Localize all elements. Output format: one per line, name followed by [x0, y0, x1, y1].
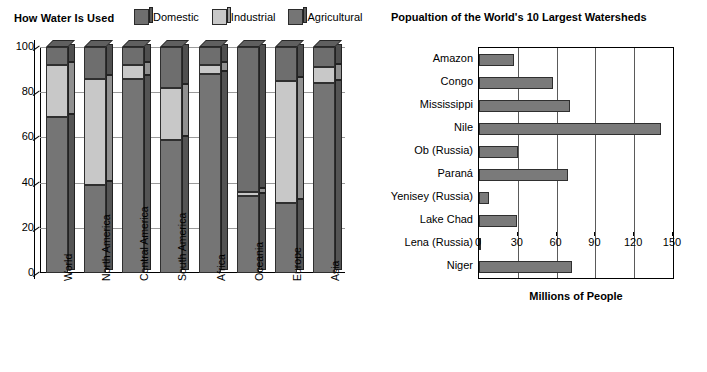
- stacked-bar-column[interactable]: [237, 47, 259, 273]
- left-chart-title: How Water Is Used: [14, 12, 114, 24]
- x-tick-label: 120: [618, 236, 648, 248]
- horizontal-bar-chart-panel: Popualtion of the World's 10 Largest Wat…: [380, 0, 707, 372]
- legend-swatch-industrial-icon: [212, 9, 227, 25]
- legend-swatch-domestic-icon: [134, 9, 149, 25]
- stacked-bar-segment-side: [68, 62, 75, 114]
- stacked-bar-segment-side: [68, 114, 75, 270]
- legend-label-domestic: Domestic: [153, 11, 199, 23]
- legend-item-industrial: Industrial: [212, 9, 276, 25]
- stacked-bar-segment-side: [221, 71, 228, 270]
- stacked-bar-segment[interactable]: [84, 47, 106, 79]
- stacked-bar-segment[interactable]: [122, 47, 144, 65]
- stacked-bar-segment-side: [144, 62, 151, 76]
- horizontal-bar[interactable]: [479, 261, 572, 273]
- legend: Domestic Industrial Agricultural: [134, 9, 370, 25]
- x-axis-category-label: North America: [100, 214, 112, 281]
- stacked-bar-segment-side: [297, 44, 304, 78]
- x-tick-mark: [478, 232, 479, 236]
- hbar-category-label: Congo: [323, 75, 473, 87]
- legend-item-agricultural: Agricultural: [288, 9, 362, 25]
- horizontal-bar[interactable]: [479, 146, 518, 158]
- stacked-bar-segment[interactable]: [46, 65, 68, 117]
- y-tick-label: 20: [0, 221, 34, 233]
- hbar-x-axis-title: Millions of People: [478, 290, 674, 302]
- stacked-bar-segment-side: [182, 84, 189, 136]
- stacked-bar-segment[interactable]: [160, 47, 182, 88]
- legend-label-industrial: Industrial: [231, 11, 276, 23]
- hbar-category-label: Mississippi: [323, 98, 473, 110]
- horizontal-bar[interactable]: [479, 169, 568, 181]
- stacked-bar-column[interactable]: [199, 47, 221, 273]
- stacked-bar-segment-side: [259, 188, 266, 193]
- stacked-bar-segment[interactable]: [199, 47, 221, 65]
- stacked-bar-segment[interactable]: [46, 47, 68, 65]
- stacked-bar-segment[interactable]: [275, 47, 297, 81]
- x-axis-category-label: South America: [176, 213, 188, 281]
- horizontal-bar[interactable]: [479, 77, 553, 89]
- y-tick-label: 80: [0, 85, 34, 97]
- legend-label-agricultural: Agricultural: [307, 11, 362, 23]
- hbar-category-label: Amazon: [323, 52, 473, 64]
- x-tick-mark: [556, 232, 557, 236]
- y-tick-label: 40: [0, 176, 34, 188]
- stacked-bar-segment-side: [297, 77, 304, 199]
- horizontal-bar[interactable]: [479, 192, 489, 204]
- stacked-bar-segment-side: [68, 44, 75, 62]
- stacked-plot-area: 020406080100: [40, 47, 345, 273]
- legend-item-domestic: Domestic: [134, 9, 199, 25]
- stacked-bar-segment[interactable]: [199, 74, 221, 273]
- y-axis-line-outer: [34, 40, 35, 279]
- horizontal-bar[interactable]: [479, 215, 517, 227]
- stacked-bar-segment-side: [144, 44, 151, 62]
- stacked-bar-segment[interactable]: [199, 65, 221, 74]
- stacked-bar-segment[interactable]: [275, 81, 297, 203]
- y-tick-label: 60: [0, 130, 34, 142]
- x-axis-category-label: Europe: [291, 247, 303, 281]
- x-tick-label: 60: [541, 236, 571, 248]
- stacked-bar-segment[interactable]: [122, 65, 144, 79]
- legend-swatch-agricultural-icon: [288, 9, 303, 25]
- hbar-category-label: Ob (Russia): [323, 144, 473, 156]
- y-tick-label: 0: [0, 266, 34, 278]
- x-tick-label: 150: [657, 236, 687, 248]
- x-axis-category-label: World: [62, 254, 74, 281]
- stacked-bar-segment-side: [106, 75, 113, 181]
- horizontal-bar[interactable]: [479, 54, 514, 66]
- x-axis-category-label: Oceania: [253, 242, 265, 281]
- stacked-bar-segment-side: [106, 44, 113, 76]
- stacked-bar-segment[interactable]: [237, 47, 259, 192]
- x-tick-mark: [594, 232, 595, 236]
- y-axis-line: [40, 47, 41, 273]
- horizontal-bar[interactable]: [479, 123, 661, 135]
- x-axis-category-label: Central America: [138, 206, 150, 281]
- x-tick-label: 0: [463, 236, 493, 248]
- right-chart-title: Popualtion of the World's 10 Largest Wat…: [391, 11, 647, 23]
- x-tick-mark: [633, 232, 634, 236]
- stacked-bar-segment-side: [182, 44, 189, 85]
- stacked-bar-segment[interactable]: [46, 117, 68, 273]
- hbar-category-label: Lake Chad: [323, 213, 473, 225]
- hbar-category-label: Yenisey (Russia): [323, 190, 473, 202]
- stacked-bar-segment-side: [259, 44, 266, 189]
- y-tick-label: 100: [0, 40, 34, 52]
- x-tick-mark: [672, 232, 673, 236]
- stacked-bar-column[interactable]: [275, 47, 297, 273]
- x-tick-mark: [517, 232, 518, 236]
- horizontal-bar[interactable]: [479, 100, 570, 112]
- x-tick-label: 30: [502, 236, 532, 248]
- stacked-bar-column[interactable]: [46, 47, 68, 273]
- hbar-category-label: Lena (Russia): [323, 236, 473, 248]
- hbar-category-label: Paraná: [323, 167, 473, 179]
- x-axis-category-label: Africa: [215, 254, 227, 281]
- stacked-bar-segment[interactable]: [160, 88, 182, 140]
- stacked-bar-segment-side: [221, 62, 228, 71]
- stacked-bar-segment[interactable]: [84, 79, 106, 185]
- stacked-bar-segment[interactable]: [237, 192, 259, 197]
- hbar-category-label: Nile: [323, 121, 473, 133]
- x-tick-label: 90: [579, 236, 609, 248]
- hbar-category-label: Niger: [323, 259, 473, 271]
